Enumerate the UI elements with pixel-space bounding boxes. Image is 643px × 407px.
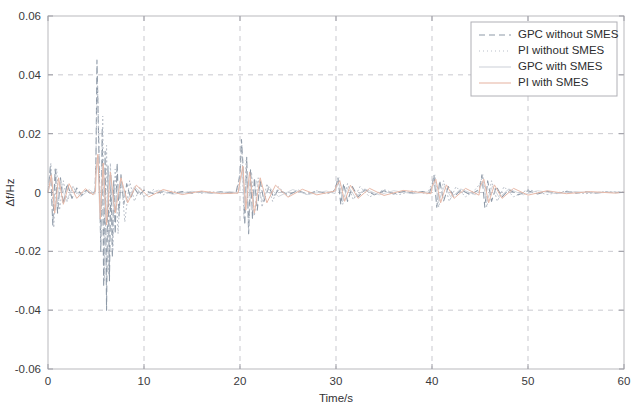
x-tick-label: 20: [234, 375, 247, 387]
y-axis-title: Δf/Hz: [4, 178, 16, 206]
legend-label-3: GPC with SMES: [518, 60, 603, 72]
y-tick-label: -0.02: [15, 245, 41, 257]
x-tick-label: 10: [138, 375, 151, 387]
plot-canvas: 0102030405060-0.06-0.04-0.0200.020.040.0…: [0, 0, 643, 407]
chart-figure: 0102030405060-0.06-0.04-0.0200.020.040.0…: [0, 0, 643, 407]
x-tick-label: 50: [522, 375, 535, 387]
x-tick-label: 0: [45, 375, 51, 387]
y-tick-label: 0.06: [19, 10, 41, 22]
y-tick-label: 0.02: [19, 128, 41, 140]
x-tick-label: 60: [618, 375, 631, 387]
x-axis-title: Time/s: [319, 392, 353, 404]
y-tick-label: -0.06: [15, 363, 41, 375]
legend-label-2: PI without SMES: [518, 44, 605, 56]
y-tick-label: -0.04: [15, 304, 42, 316]
y-tick-label: 0.04: [19, 69, 42, 81]
x-tick-label: 30: [330, 375, 343, 387]
y-tick-label: 0: [35, 187, 41, 199]
x-tick-label: 40: [426, 375, 439, 387]
legend-label-1: GPC without SMES: [518, 28, 619, 40]
legend-label-4: PI with SMES: [518, 76, 589, 88]
